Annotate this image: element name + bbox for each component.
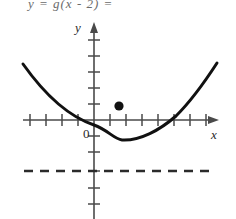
graph-figure: y = g(x - 2) = — [0, 0, 236, 219]
origin-label: 0 — [83, 126, 90, 141]
y-axis-label: y — [73, 20, 81, 35]
coordinate-plane: y x 0 — [0, 0, 236, 219]
x-axis-label: x — [210, 127, 217, 142]
marked-point — [114, 101, 123, 110]
